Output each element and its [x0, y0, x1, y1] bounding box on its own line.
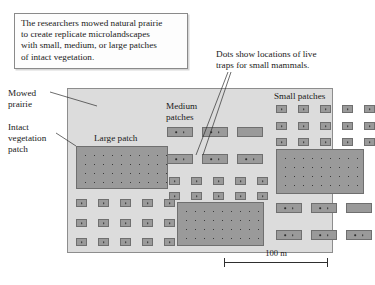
medium-patch	[346, 203, 372, 213]
trap-dot	[169, 241, 171, 243]
label-line: Medium	[166, 101, 197, 112]
scale-label: 100 m	[224, 248, 328, 258]
small-patch	[298, 105, 309, 113]
trap-dot	[281, 141, 283, 143]
trap-dot	[147, 222, 149, 224]
medium-patch	[311, 203, 337, 213]
small-patch	[342, 122, 353, 130]
small-patch	[142, 219, 153, 227]
small-patch	[76, 238, 87, 246]
medium-patch	[167, 127, 193, 137]
trap-dot	[303, 125, 305, 127]
label-mowed-prairie: Mowed prairie	[8, 88, 36, 110]
trap-dot	[354, 234, 356, 236]
small-patch	[364, 138, 375, 146]
medium-patch	[276, 203, 302, 213]
trap-dot	[81, 202, 83, 204]
trap-dot	[196, 195, 198, 197]
trap-dot	[369, 141, 371, 143]
medium-patch	[202, 154, 228, 164]
trap-dot	[369, 125, 371, 127]
small-patch	[76, 199, 87, 207]
small-patch	[164, 219, 175, 227]
small-patch	[364, 105, 375, 113]
label-small-patches: Small patches	[274, 91, 325, 102]
trap-dot	[210, 131, 212, 133]
label-medium-patches: Medium patches	[166, 101, 197, 122]
trap-dot	[262, 195, 264, 197]
trap-dot	[81, 222, 83, 224]
trap-dot	[125, 241, 127, 243]
trap-dot	[240, 195, 242, 197]
small-patch	[257, 177, 268, 185]
trap-dot	[169, 222, 171, 224]
trap-dot	[325, 141, 327, 143]
trap-dot	[303, 141, 305, 143]
caption-box: The researchers mowed natural prairie to…	[14, 13, 188, 69]
small-patch	[191, 192, 202, 200]
label-intact-vegetation-patch: Intact vegetation patch	[8, 122, 46, 156]
caption-line: of intact vegetation.	[21, 52, 181, 63]
trap-dot	[175, 131, 177, 133]
small-patch	[191, 177, 202, 185]
medium-patch	[311, 230, 337, 240]
label-line: Mowed	[8, 88, 36, 99]
trap-dot	[218, 131, 220, 133]
trap-dot	[125, 202, 127, 204]
small-patch	[164, 238, 175, 246]
scale-bar-tick-right	[327, 258, 328, 267]
trap-dot	[81, 241, 83, 243]
small-patch	[276, 105, 287, 113]
traps-annotation: Dots show locations of live traps for sm…	[216, 49, 344, 71]
trap-dot	[347, 108, 349, 110]
trap-dot	[284, 234, 286, 236]
small-patch	[276, 122, 287, 130]
label-large-patch: Large patch	[94, 133, 137, 144]
small-patch	[164, 199, 175, 207]
traps-annotation-line: traps for small mammals.	[216, 60, 344, 71]
trap-dot	[281, 108, 283, 110]
small-patch	[342, 138, 353, 146]
trap-dot	[174, 180, 176, 182]
medium-patch	[237, 127, 263, 137]
trap-dot	[103, 222, 105, 224]
trap-dot	[303, 108, 305, 110]
trap-dot	[362, 234, 364, 236]
label-line: patches	[166, 112, 197, 123]
small-patch	[169, 177, 180, 185]
trap-dot	[253, 158, 255, 160]
trap-dot	[183, 131, 185, 133]
trap-dot	[218, 195, 220, 197]
small-patch	[142, 238, 153, 246]
trap-dot	[147, 241, 149, 243]
trap-dot	[147, 202, 149, 204]
caption-line: The researchers mowed natural prairie	[21, 18, 181, 29]
trap-dot	[183, 158, 185, 160]
trap-dot	[196, 180, 198, 182]
small-patch	[120, 219, 131, 227]
small-patch	[98, 219, 109, 227]
medium-patch	[237, 154, 263, 164]
caption-line: with small, medium, or large patches	[21, 40, 181, 51]
trap-dot	[125, 222, 127, 224]
trap-dot	[175, 158, 177, 160]
scale-bar-tick-left	[224, 258, 225, 267]
trap-dot	[281, 125, 283, 127]
small-patch	[142, 199, 153, 207]
small-patch	[120, 199, 131, 207]
trap-dot	[218, 180, 220, 182]
trap-dot	[210, 158, 212, 160]
small-patch	[320, 105, 331, 113]
trap-dot	[347, 125, 349, 127]
trap-dot	[347, 141, 349, 143]
medium-patch	[202, 127, 228, 137]
trap-dot	[327, 207, 329, 209]
trap-dot	[103, 241, 105, 243]
medium-patch	[276, 230, 302, 240]
small-patch	[235, 192, 246, 200]
trap-dot	[262, 180, 264, 182]
medium-patch	[167, 154, 193, 164]
scale-bar	[224, 262, 328, 263]
small-patch	[276, 138, 287, 146]
